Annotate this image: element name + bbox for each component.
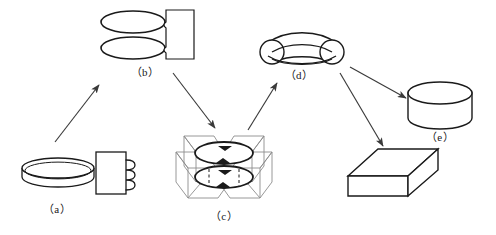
- stage-label-b: （b）: [131, 63, 160, 79]
- stage-c-shape: [176, 136, 272, 198]
- diagram-canvas: （a） （b） （c） （d） （e）: [0, 0, 496, 235]
- stage-e-shape: [408, 82, 472, 129]
- stage-f-shape: [348, 149, 438, 196]
- stage-b-shape: [101, 10, 194, 59]
- arrow-b-to-c: [173, 73, 215, 128]
- stage-label-c: （c）: [210, 207, 238, 223]
- ring-block: [164, 10, 194, 59]
- flow-arrows: [55, 67, 406, 146]
- coil-winding: [126, 160, 135, 190]
- cylinder-top-face: [408, 82, 472, 104]
- arrow-c-to-d: [248, 83, 277, 130]
- diagram-graphics: [0, 0, 496, 235]
- ring-lower: [101, 37, 165, 59]
- stage-label-e: （e）: [426, 128, 454, 144]
- stage-label-a: （a）: [43, 200, 71, 216]
- stage-a-shape: [22, 152, 135, 194]
- stage-label-d: （d）: [285, 66, 314, 82]
- stage-d-shape: [260, 33, 344, 65]
- coil-block: [96, 152, 126, 194]
- ring-upper: [101, 11, 165, 33]
- cuboid-front-face: [348, 176, 408, 196]
- disc-top-face: [22, 158, 94, 178]
- arrow-a-to-b: [55, 85, 99, 142]
- arrow-d-to-e: [350, 67, 406, 98]
- arrow-d-to-f: [340, 73, 383, 146]
